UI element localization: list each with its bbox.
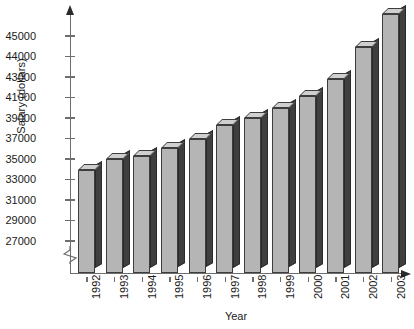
bar-side-face	[316, 87, 323, 268]
bar	[161, 148, 178, 272]
bar-front-face	[106, 159, 123, 273]
bar	[299, 96, 316, 273]
bar	[189, 139, 206, 272]
x-axis-title: Year	[70, 310, 402, 322]
x-axis-tick-label: 2003	[396, 259, 407, 299]
x-axis-tick	[86, 277, 87, 282]
x-axis-tick-label: 1999	[285, 259, 296, 299]
bar-front-face	[327, 79, 344, 273]
x-axis-tick	[363, 277, 364, 282]
y-axis-tick-label: 29000	[0, 215, 36, 226]
x-axis-tick-label: 2000	[313, 259, 324, 299]
plot-area	[70, 14, 402, 274]
y-axis-tick-label: 33000	[0, 174, 36, 185]
bar	[382, 14, 399, 273]
bar-side-face	[206, 130, 213, 267]
bar-front-face	[272, 108, 289, 272]
bar-front-face	[299, 96, 316, 273]
x-axis-tick-label: 1994	[147, 259, 158, 299]
x-axis-tick-label: 1998	[257, 259, 268, 299]
x-axis-tick-label: 1996	[202, 259, 213, 299]
bar-side-face	[95, 161, 102, 268]
x-axis-tick-label: 1992	[91, 259, 102, 299]
bar-front-face	[216, 125, 233, 273]
y-axis-tick-label: 37000	[0, 133, 36, 144]
bar-front-face	[78, 170, 95, 273]
bar-side-face	[233, 116, 240, 268]
x-axis-tick	[142, 277, 143, 282]
y-axis-tick-label: 45000	[0, 31, 36, 42]
bar-chart: Salary (dollars) 19921993199419951996199…	[0, 0, 414, 329]
x-axis-tick-label: 1993	[119, 259, 130, 299]
bar-side-face	[123, 150, 130, 268]
bar	[272, 108, 289, 272]
bar-side-face	[344, 70, 351, 268]
x-axis-tick	[391, 277, 392, 282]
x-axis-tick	[280, 277, 281, 282]
x-axis-tick	[114, 277, 115, 282]
bar-side-face	[178, 139, 185, 267]
y-axis-tick-label: 41000	[0, 92, 36, 103]
bar	[244, 118, 261, 273]
bar-side-face	[289, 99, 296, 267]
bar-front-face	[133, 156, 150, 273]
bar-series	[70, 15, 402, 273]
y-axis-tick-label: 39000	[0, 113, 36, 124]
x-axis-tick	[225, 277, 226, 282]
bar-front-face	[382, 14, 399, 273]
x-axis-tick	[197, 277, 198, 282]
x-axis-tick	[169, 277, 170, 282]
bar	[355, 47, 372, 273]
y-axis-arrow-icon	[66, 5, 74, 15]
y-axis-tick-label: 43000	[0, 72, 36, 83]
bar	[216, 125, 233, 273]
y-axis-tick-label: 44000	[0, 51, 36, 62]
bar-front-face	[355, 47, 372, 273]
bar	[78, 170, 95, 273]
bar-side-face	[372, 38, 379, 268]
x-axis-tick-label: 2001	[340, 259, 351, 299]
x-axis-tick	[308, 277, 309, 282]
y-axis-tick-label: 35000	[0, 154, 36, 165]
bar-front-face	[161, 148, 178, 272]
bar	[106, 159, 123, 273]
y-axis-tick-label: 27000	[0, 236, 36, 247]
x-axis-tick-label: 2002	[368, 259, 379, 299]
x-axis-tick	[335, 277, 336, 282]
bar-side-face	[261, 109, 268, 268]
bar-front-face	[189, 139, 206, 272]
bar	[133, 156, 150, 273]
x-axis-tick	[252, 277, 253, 282]
bar-side-face	[150, 147, 157, 268]
x-axis-tick-label: 1995	[174, 259, 185, 299]
bar-front-face	[244, 118, 261, 273]
bar	[327, 79, 344, 273]
x-axis-tick-label: 1997	[230, 259, 241, 299]
y-axis-tick-label: 31000	[0, 195, 36, 206]
bar-side-face	[399, 5, 406, 268]
